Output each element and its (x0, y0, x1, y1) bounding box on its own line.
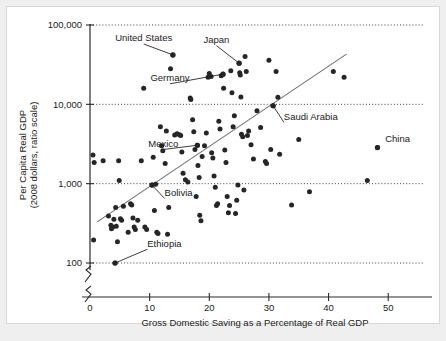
data-point (135, 218, 140, 223)
trend-line (97, 54, 346, 222)
scatter-plot: 1001,00010,000100,000 01020304050 United… (0, 0, 446, 341)
x-tick-label-20: 20 (204, 302, 215, 313)
x-tick-label-30: 30 (264, 302, 275, 313)
leader-line (216, 46, 239, 64)
data-point (255, 108, 260, 113)
data-point (163, 161, 168, 166)
data-point (198, 218, 203, 223)
x-tick-labels: 01020304050 (87, 302, 393, 313)
trend-line-segment (97, 54, 346, 222)
data-point (212, 173, 217, 178)
y-tick-label-10000: 10,000 (53, 99, 82, 110)
data-point (240, 134, 245, 139)
y-tick-label-100: 100 (66, 257, 82, 268)
data-point (235, 183, 240, 188)
annotation-label: Japan (203, 34, 229, 45)
data-point (246, 129, 251, 134)
data-point (133, 227, 138, 232)
y-tick-label-100000: 100,000 (48, 19, 82, 30)
data-point (204, 131, 209, 136)
data-point (179, 150, 184, 155)
data-point (241, 188, 246, 193)
data-point (228, 68, 233, 73)
data-point (141, 86, 146, 91)
data-point (274, 69, 279, 74)
data-point (165, 232, 170, 237)
annotation-label: Ethiopia (147, 238, 182, 249)
data-point (275, 95, 280, 100)
annotated-data-point (375, 145, 380, 150)
data-point (331, 69, 336, 74)
annotation-label: United States (115, 32, 172, 43)
annotation-label: Saudi Arabia (284, 111, 339, 122)
data-point (289, 202, 294, 207)
data-point (155, 231, 160, 236)
data-point (216, 119, 221, 124)
y-axis-title-line2: (2008 dollars, ratio scale) (28, 102, 39, 209)
data-point (296, 137, 301, 142)
data-point (151, 155, 156, 160)
y-axis-title-line1: Per Capita Real GDP (17, 110, 28, 200)
annotation-label: Germany (150, 72, 189, 83)
data-point (197, 175, 202, 180)
x-axis (82, 293, 432, 301)
data-point (202, 143, 207, 148)
data-point (200, 154, 205, 159)
data-point (223, 160, 228, 165)
data-point (178, 133, 183, 138)
data-point (231, 124, 236, 129)
data-point (144, 227, 149, 232)
leader-line (273, 106, 284, 122)
data-point (194, 194, 199, 199)
data-point (268, 147, 273, 152)
data-point (111, 217, 116, 222)
data-point (218, 126, 223, 131)
x-axis-title: Gross Domestic Saving as a Percentage of… (141, 317, 368, 328)
data-point (232, 113, 237, 118)
data-point (92, 160, 97, 165)
data-point (238, 72, 243, 77)
data-point (114, 224, 119, 229)
data-point (233, 211, 238, 216)
data-point (210, 156, 215, 161)
data-point (181, 171, 186, 176)
data-point (185, 179, 190, 184)
data-point (227, 203, 232, 208)
data-point (106, 214, 111, 219)
data-point (243, 54, 248, 59)
data-point (258, 125, 263, 130)
data-point (126, 230, 131, 235)
data-point (226, 210, 231, 215)
data-point (234, 198, 239, 203)
data-point (116, 158, 121, 163)
data-point (365, 178, 370, 183)
data-point (130, 215, 135, 220)
data-point (190, 117, 195, 122)
data-point (307, 189, 312, 194)
data-point (209, 150, 214, 155)
annotation-labels: United StatesJapanGermanySaudi ArabiaMex… (115, 32, 411, 248)
chart-figure: 1001,00010,000100,000 01020304050 United… (0, 0, 446, 341)
data-point (225, 194, 230, 199)
data-point (264, 161, 269, 166)
data-point (251, 156, 256, 161)
data-point (168, 66, 173, 71)
x-tick-label-40: 40 (323, 302, 334, 313)
data-point (117, 178, 122, 183)
y-tick-label-1000: 1,000 (58, 178, 82, 189)
annotation-label: Bolivia (165, 187, 194, 198)
data-point (215, 201, 220, 206)
annotation-label: China (385, 133, 411, 144)
data-point (101, 158, 106, 163)
data-point (115, 239, 120, 244)
data-point (188, 97, 193, 102)
data-point (342, 75, 347, 80)
data-point (238, 94, 243, 99)
data-point (222, 148, 227, 153)
data-point (266, 58, 271, 63)
data-point (249, 142, 254, 147)
data-point (91, 237, 96, 242)
x-tick-label-10: 10 (144, 302, 155, 313)
data-point (197, 213, 202, 218)
y-tick-labels: 1001,00010,000100,000 (48, 19, 82, 268)
